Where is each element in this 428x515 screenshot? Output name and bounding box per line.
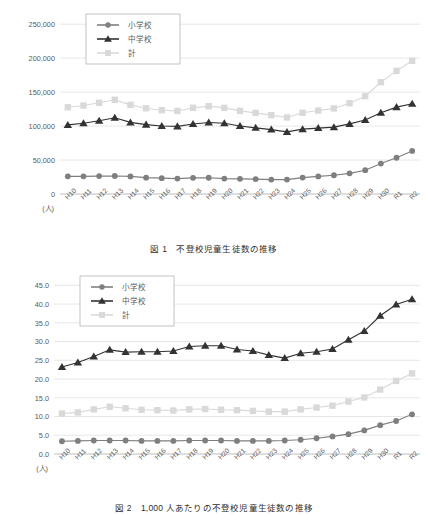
data-point-marker	[361, 116, 369, 123]
data-point-marker	[315, 174, 321, 180]
x-axis-tick-label: H24	[283, 187, 297, 201]
data-point-marker	[139, 438, 145, 444]
y-axis-tick-label: 0	[51, 190, 55, 199]
y-axis-tick-label: 20.0	[35, 375, 49, 384]
data-point-marker	[268, 112, 274, 118]
data-point-marker	[409, 58, 415, 64]
series-中学校	[64, 100, 417, 135]
data-point-marker	[266, 438, 272, 444]
x-axis-tick-label: H15	[137, 447, 151, 461]
x-axis-tick-labels: H10H11H12H13H14H15H16H17H18H19H20H21H22H…	[64, 187, 420, 201]
data-point-marker	[377, 386, 383, 392]
legend-label: 小学校	[128, 20, 152, 30]
y-axis-tick-label: 100,000	[29, 122, 55, 131]
x-axis-tick-label: H28	[344, 447, 358, 461]
y-axis-tick-label: 40.0	[35, 300, 49, 309]
data-point-marker	[221, 105, 227, 111]
y-axis-tick-label: 5.0	[39, 431, 49, 440]
data-point-marker	[362, 93, 368, 99]
y-axis-tick-label: 35.0	[35, 319, 49, 328]
x-axis-tick-label: H28	[345, 187, 359, 201]
legend-label: 中学校	[122, 296, 146, 306]
figure-2-caption: 図 2 1,000 人あたりの不登校児童生徒数の推移	[0, 498, 428, 515]
data-point-marker	[234, 438, 240, 444]
legend-label: 小学校	[122, 282, 146, 292]
x-axis-tick-label: H18	[185, 447, 199, 461]
data-point-marker	[250, 408, 256, 414]
data-point-marker	[112, 173, 118, 179]
x-axis-tick-label: H10	[64, 187, 78, 201]
data-point-marker	[107, 438, 113, 444]
data-point-marker	[237, 176, 243, 182]
x-axis-tick-label: H21	[233, 447, 247, 461]
x-axis-tick-label: H24	[280, 447, 294, 461]
data-point-marker	[331, 105, 337, 111]
x-axis-tick-label: H12	[95, 187, 109, 201]
data-point-marker	[143, 105, 149, 111]
data-point-marker	[234, 407, 240, 413]
data-point-marker	[378, 161, 384, 167]
data-point-marker	[107, 404, 113, 410]
data-point-marker	[206, 103, 212, 109]
data-point-marker	[190, 105, 196, 111]
data-point-marker	[313, 404, 319, 410]
data-point-marker	[378, 79, 384, 85]
x-axis-tick-label: H10	[58, 447, 72, 461]
data-point-marker	[186, 438, 192, 444]
x-axis-tick-label: H18	[189, 187, 203, 201]
data-point-marker	[138, 407, 144, 413]
data-point-marker	[361, 427, 367, 433]
x-axis-tick-label: H15	[142, 187, 156, 201]
data-point-marker	[331, 172, 337, 178]
data-point-marker	[394, 155, 400, 161]
data-point-marker	[315, 107, 321, 113]
data-point-marker	[268, 177, 274, 183]
data-point-marker	[80, 102, 86, 108]
x-axis-tick-label: H23	[267, 187, 281, 201]
data-point-marker	[300, 175, 306, 181]
data-point-marker	[218, 438, 224, 444]
data-point-marker	[127, 102, 133, 108]
data-point-marker	[376, 312, 384, 319]
data-point-marker	[99, 284, 104, 289]
x-axis-tick-label: H11	[74, 447, 88, 461]
y-axis-tick-label: 45.0	[35, 281, 49, 290]
data-point-marker	[408, 295, 416, 302]
x-axis-tick-label: H14	[126, 187, 140, 201]
data-point-marker	[96, 173, 102, 179]
data-point-marker	[99, 312, 105, 318]
data-point-marker	[221, 176, 227, 182]
chart-2: 0.05.010.015.020.025.030.035.040.045.0H1…	[0, 260, 428, 498]
x-axis-tick-label: R1	[392, 449, 403, 460]
data-point-marker	[266, 408, 272, 414]
y-axis-tick-label: 10.0	[35, 412, 49, 421]
y-axis-tick-label: 25.0	[35, 356, 49, 365]
chart-legend: 小学校中学校計	[80, 276, 174, 326]
data-point-marker	[206, 175, 212, 181]
chart-svg: 050,000100,000150,000200,000250,000H10H1…	[0, 0, 428, 238]
data-point-marker	[252, 110, 258, 116]
x-axis-tick-label: H30	[376, 447, 390, 461]
x-axis-tick-label: H22	[251, 187, 265, 201]
data-point-marker	[122, 405, 128, 411]
x-axis-tick-label: H21	[236, 187, 250, 201]
data-point-marker	[361, 394, 367, 400]
data-point-marker	[344, 336, 352, 343]
chart-1: 050,000100,000150,000200,000250,000H10H1…	[0, 0, 428, 238]
legend-label: 中学校	[128, 34, 152, 44]
y-axis-tick-label: 50,000	[33, 156, 55, 165]
data-point-marker	[250, 438, 256, 444]
x-axis-tick-label: H20	[217, 447, 231, 461]
data-point-marker	[65, 104, 71, 110]
x-axis-tick-label: H27	[328, 447, 342, 461]
axis-unit-label: (人)	[42, 204, 54, 213]
data-point-marker	[74, 359, 82, 366]
y-axis-tick-label: 0.0	[39, 450, 49, 459]
data-point-marker	[174, 176, 180, 182]
chart-legend: 小学校中学校計	[86, 14, 180, 64]
y-axis-tick-label: 150,000	[29, 88, 55, 97]
data-point-marker	[282, 438, 288, 444]
x-axis-tick-label: H27	[330, 187, 344, 201]
x-axis-tick-label: H12	[90, 447, 104, 461]
data-point-marker	[174, 108, 180, 114]
